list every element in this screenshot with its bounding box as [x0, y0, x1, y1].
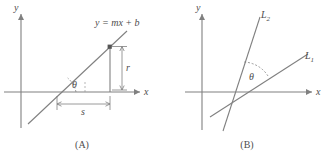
panel-b-line-2-subscript: 2 [267, 15, 271, 23]
panel-a-run-label: s [81, 107, 85, 117]
slope-angle-figure: y x y = mx + b θ r s (A) [0, 0, 329, 163]
panel-a-caption: (A) [0, 140, 164, 150]
panel-b-y-axis-label: y [196, 3, 200, 13]
panel-a-angle-label: θ [72, 80, 77, 90]
panel-a-x-axis-label: x [144, 87, 148, 97]
panel-a-rise-label: r [126, 63, 130, 73]
panel-b-line-2 [223, 17, 260, 131]
panel-a-point-marker [108, 45, 112, 49]
panel-a-line-equation-label: y = mx + b [95, 18, 140, 28]
panel-b-caption: (B) [165, 140, 329, 150]
panel-b: y x L2 L1 θ (B) [165, 0, 329, 163]
panel-a-y-axis-label: y [14, 3, 18, 13]
panel-a: y x y = mx + b θ r s (A) [0, 0, 164, 163]
panel-b-line-2-label: L2 [261, 10, 270, 23]
panel-b-line-1 [210, 54, 308, 117]
panel-b-line-1-label: L1 [305, 51, 314, 64]
panel-b-angle-arc [244, 62, 268, 76]
panel-b-angle-label: θ [249, 72, 254, 82]
panel-b-x-axis-label: x [316, 87, 320, 97]
panel-b-line-1-subscript: 1 [311, 56, 315, 64]
panel-a-line [28, 31, 127, 124]
